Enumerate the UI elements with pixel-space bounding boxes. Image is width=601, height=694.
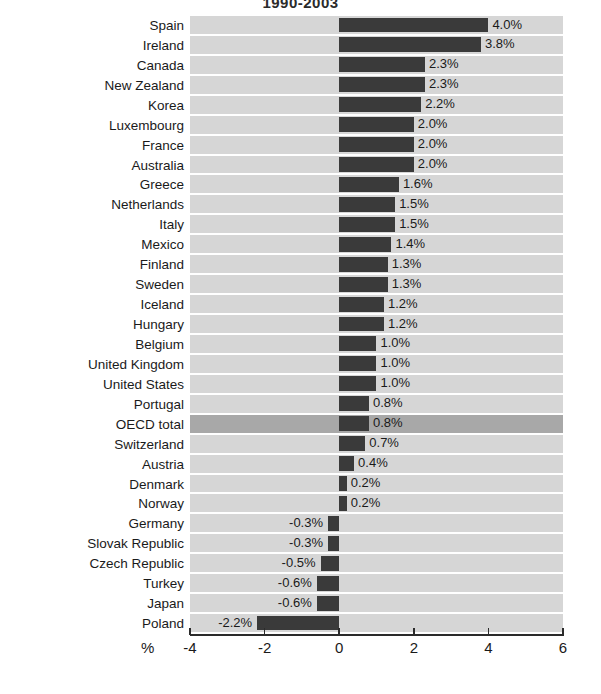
category-label: Portugal [2, 395, 184, 415]
category-label: United Kingdom [2, 355, 184, 375]
bar-value-label: 1.2% [388, 315, 418, 334]
category-label: France [2, 136, 184, 156]
bar-value-label: 1.0% [381, 334, 411, 353]
x-tick [338, 628, 340, 635]
chart-row: -0.3% [190, 534, 563, 554]
chart-row: -0.3% [190, 514, 563, 534]
x-tick [488, 628, 490, 635]
category-label: Sweden [2, 275, 184, 295]
row-band [190, 355, 563, 373]
x-tick-label: 6 [543, 638, 583, 658]
category-label: Iceland [2, 295, 184, 315]
category-label: Italy [2, 215, 184, 235]
chart-row: -0.5% [190, 554, 563, 574]
chart-row: 0.8% [190, 395, 563, 415]
bar-value-label: 1.5% [399, 195, 429, 214]
bar-value-label: 1.0% [381, 354, 411, 373]
bar [339, 336, 376, 351]
bar-value-label: 2.0% [418, 155, 448, 174]
bar [339, 77, 425, 92]
chart-row: -0.6% [190, 574, 563, 594]
bar [339, 137, 414, 152]
category-label: Ireland [2, 36, 184, 56]
chart-row: 2.2% [190, 96, 563, 116]
category-label: Mexico [2, 235, 184, 255]
chart-row: 3.8% [190, 36, 563, 56]
chart-row: 1.3% [190, 255, 563, 275]
bar-value-label: -0.3% [289, 514, 323, 533]
chart-row: 4.0% [190, 16, 563, 36]
category-label: Korea [2, 96, 184, 116]
bar [339, 237, 391, 252]
category-label: Turkey [2, 574, 184, 594]
category-label: Slovak Republic [2, 534, 184, 554]
bar [257, 616, 339, 631]
bar-value-label: 0.4% [358, 454, 388, 473]
bar [317, 576, 339, 591]
bar [339, 297, 384, 312]
bar [339, 396, 369, 411]
bar [339, 476, 346, 491]
x-tick [264, 628, 266, 635]
bar [339, 436, 365, 451]
chart-row: 1.0% [190, 375, 563, 395]
chart-row: 0.4% [190, 455, 563, 475]
chart-row: 0.8% [190, 415, 563, 435]
bar-value-label: 2.3% [429, 55, 459, 74]
x-axis-unit-label: % [141, 638, 154, 658]
bar-value-label: 0.2% [351, 474, 381, 493]
row-band [190, 335, 563, 353]
bar-value-label: 0.8% [373, 414, 403, 433]
bar-value-label: 2.3% [429, 75, 459, 94]
bar [339, 356, 376, 371]
category-label: Hungary [2, 315, 184, 335]
bar [339, 157, 414, 172]
bar [339, 18, 488, 33]
category-label: Spain [2, 16, 184, 36]
x-tick [562, 628, 564, 635]
bar [321, 556, 340, 571]
bar-value-label: 1.0% [381, 374, 411, 393]
category-label: New Zealand [2, 76, 184, 96]
chart-row: 1.5% [190, 215, 563, 235]
plot-area: 4.0%3.8%2.3%2.3%2.2%2.0%2.0%2.0%1.6%1.5%… [190, 16, 564, 634]
bar-value-label: -2.2% [218, 614, 252, 633]
bar-value-label: -0.6% [278, 594, 312, 613]
bar-value-label: 1.5% [399, 215, 429, 234]
x-tick-label: -2 [245, 638, 285, 658]
x-tick-label: 2 [394, 638, 434, 658]
bar-value-label: 1.6% [403, 175, 433, 194]
bar-value-label: -0.3% [289, 534, 323, 553]
x-axis-line [190, 634, 564, 636]
bar [339, 97, 421, 112]
bar [339, 257, 387, 272]
chart-row: 1.6% [190, 175, 563, 195]
category-label: Poland [2, 614, 184, 634]
category-label: OECD total [2, 415, 184, 435]
bar-value-label: -0.5% [282, 554, 316, 573]
x-tick-label: 4 [468, 638, 508, 658]
x-tick [189, 628, 191, 635]
bar-value-label: -0.6% [278, 574, 312, 593]
bar-chart: 1990-2003 SpainIrelandCanadaNew ZealandK… [0, 0, 601, 694]
category-label: Austria [2, 455, 184, 475]
chart-row: 1.5% [190, 195, 563, 215]
bar [339, 117, 414, 132]
category-label: Norway [2, 494, 184, 514]
bar-value-label: 0.8% [373, 394, 403, 413]
x-tick-label: 0 [319, 638, 359, 658]
row-band [190, 375, 563, 393]
row-band [190, 534, 563, 552]
category-axis-labels: SpainIrelandCanadaNew ZealandKoreaLuxemb… [0, 16, 184, 634]
bar [317, 596, 339, 611]
bar-value-label: 3.8% [485, 35, 515, 54]
bar-value-label: 2.0% [418, 135, 448, 154]
chart-row: 1.2% [190, 295, 563, 315]
bar [339, 317, 384, 332]
chart-row: 1.2% [190, 315, 563, 335]
chart-row: -0.6% [190, 594, 563, 614]
category-label: Germany [2, 514, 184, 534]
category-label: Denmark [2, 475, 184, 495]
row-band [190, 554, 563, 572]
category-label: United States [2, 375, 184, 395]
